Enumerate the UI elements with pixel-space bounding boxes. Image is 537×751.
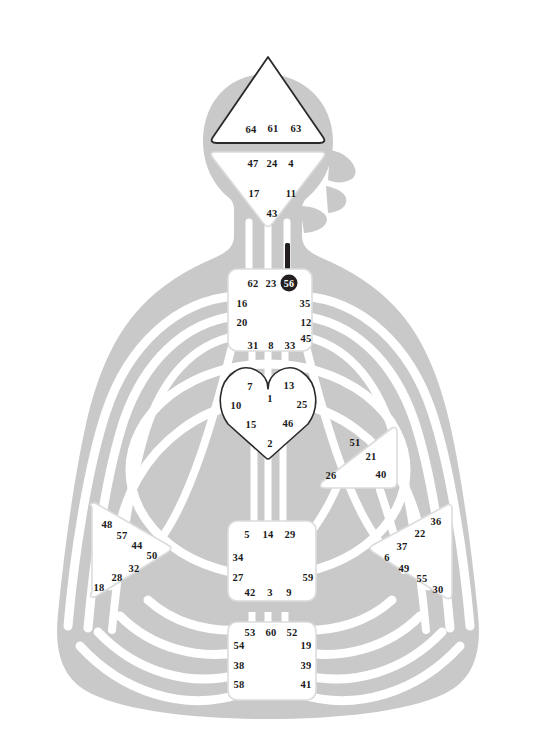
gate-20[interactable]: 20 — [237, 317, 248, 328]
gate-23[interactable]: 23 — [266, 278, 277, 289]
gate-47[interactable]: 47 — [248, 158, 259, 169]
gate-4[interactable]: 4 — [288, 158, 293, 169]
gate-14[interactable]: 14 — [263, 529, 274, 540]
gate-50[interactable]: 50 — [147, 550, 158, 561]
gate-34[interactable]: 34 — [233, 552, 244, 563]
gate-24[interactable]: 24 — [267, 158, 278, 169]
gate-54[interactable]: 54 — [234, 640, 245, 651]
gate-52[interactable]: 52 — [287, 627, 298, 638]
gate-32[interactable]: 32 — [129, 563, 140, 574]
gate-16[interactable]: 16 — [237, 298, 248, 309]
gate-15[interactable]: 15 — [246, 419, 257, 430]
gate-63[interactable]: 63 — [291, 123, 302, 134]
gate-2[interactable]: 2 — [267, 438, 272, 449]
gate-31[interactable]: 31 — [248, 340, 259, 351]
gate-18[interactable]: 18 — [94, 582, 105, 593]
gate-36[interactable]: 36 — [431, 516, 442, 527]
gate-38[interactable]: 38 — [234, 660, 245, 671]
gate-5[interactable]: 5 — [244, 529, 249, 540]
gate-42[interactable]: 42 — [245, 587, 256, 598]
gate-62[interactable]: 62 — [248, 278, 259, 289]
gate-39[interactable]: 39 — [301, 660, 312, 671]
activated-channel-56 — [285, 243, 290, 271]
gate-49[interactable]: 49 — [399, 563, 410, 574]
gate-61[interactable]: 61 — [268, 123, 279, 134]
gate-51[interactable]: 51 — [350, 437, 361, 448]
gate-44[interactable]: 44 — [132, 540, 143, 551]
gate-17[interactable]: 17 — [249, 188, 260, 199]
gate-19[interactable]: 19 — [301, 640, 312, 651]
gate-59[interactable]: 59 — [303, 572, 314, 583]
gate-1[interactable]: 1 — [267, 393, 272, 404]
gate-55[interactable]: 55 — [417, 573, 428, 584]
gate-46[interactable]: 46 — [283, 418, 294, 429]
gate-37[interactable]: 37 — [397, 541, 408, 552]
gate-57[interactable]: 57 — [117, 530, 128, 541]
gate-21[interactable]: 21 — [366, 451, 377, 462]
gate-7[interactable]: 7 — [247, 381, 252, 392]
gate-35[interactable]: 35 — [300, 298, 311, 309]
sacral-root-connectors — [247, 601, 290, 612]
gate-48[interactable]: 48 — [102, 519, 113, 530]
gate-58[interactable]: 58 — [234, 679, 245, 690]
gate-29[interactable]: 29 — [285, 529, 296, 540]
gate-30[interactable]: 30 — [433, 584, 444, 595]
bodygraph-canvas — [0, 0, 537, 751]
gate-13[interactable]: 13 — [284, 380, 295, 391]
bodygraph-diagram: 6461634724417114362235616352012453183371… — [0, 0, 537, 751]
gate-45[interactable]: 45 — [301, 333, 312, 344]
gate-28[interactable]: 28 — [112, 572, 123, 583]
gate-22[interactable]: 22 — [415, 528, 426, 539]
gate-33[interactable]: 33 — [285, 340, 296, 351]
gate-41[interactable]: 41 — [301, 679, 312, 690]
gate-8[interactable]: 8 — [268, 340, 273, 351]
gate-6[interactable]: 6 — [384, 552, 389, 563]
gate-64[interactable]: 64 — [246, 124, 257, 135]
gate-11[interactable]: 11 — [286, 188, 296, 199]
gate-60[interactable]: 60 — [266, 627, 277, 638]
gate-27[interactable]: 27 — [233, 572, 244, 583]
gate-26[interactable]: 26 — [326, 470, 337, 481]
gate-3[interactable]: 3 — [267, 587, 272, 598]
gate-40[interactable]: 40 — [376, 469, 387, 480]
gate-25[interactable]: 25 — [297, 399, 308, 410]
gate-53[interactable]: 53 — [245, 627, 256, 638]
gate-43[interactable]: 43 — [267, 208, 278, 219]
gate-10[interactable]: 10 — [231, 400, 242, 411]
gate-12[interactable]: 12 — [301, 317, 312, 328]
gate-9[interactable]: 9 — [286, 587, 291, 598]
gate-56[interactable]: 56 — [281, 275, 298, 292]
